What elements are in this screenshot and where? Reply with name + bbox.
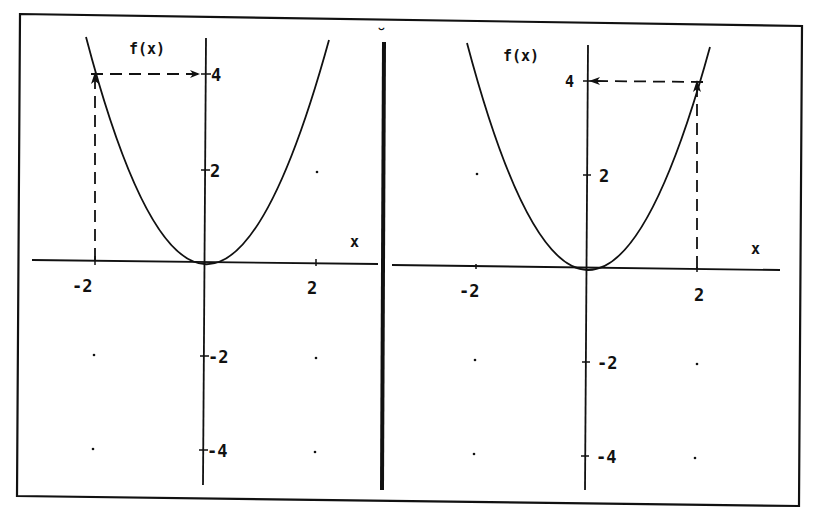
panel-divider <box>382 42 384 490</box>
right-ytick-label-m4: -4 <box>596 447 616 467</box>
left-ytick-label-2: 2 <box>210 161 220 181</box>
outer-frame <box>17 14 802 506</box>
left-ytick-label-4: 4 <box>211 65 221 85</box>
right-chart: -2 2 4 2 -2 -4 f(x) x <box>392 43 780 490</box>
left-xtick-label-pos2: 2 <box>307 278 317 298</box>
left-ytick-label-m2: -2 <box>208 347 228 367</box>
left-xtick-label-neg2: -2 <box>72 276 92 296</box>
right-ytick-label-m2: -2 <box>597 353 617 373</box>
right-ytick-label-4: 4 <box>565 73 574 91</box>
right-x-axis-label: x <box>751 240 760 258</box>
left-x-axis-label: x <box>350 233 359 251</box>
left-ytick-label-m4: -4 <box>207 441 227 461</box>
right-y-axis-label: f(x) <box>503 47 539 65</box>
right-ytick-label-2: 2 <box>599 166 609 186</box>
divider-mark: ˘ <box>376 25 387 46</box>
left-parabola-curve <box>86 37 329 264</box>
right-dashed-horizontal <box>596 81 703 82</box>
left-chart: -2 2 4 2 -2 -4 f(x) x <box>32 37 378 485</box>
figure: ˘ -2 2 4 2 -2 -4 f(x) x <box>0 0 815 518</box>
left-y-axis-label: f(x) <box>129 40 165 58</box>
right-xtick-label-pos2: 2 <box>694 285 704 305</box>
right-xtick-label-neg2: -2 <box>459 281 479 301</box>
